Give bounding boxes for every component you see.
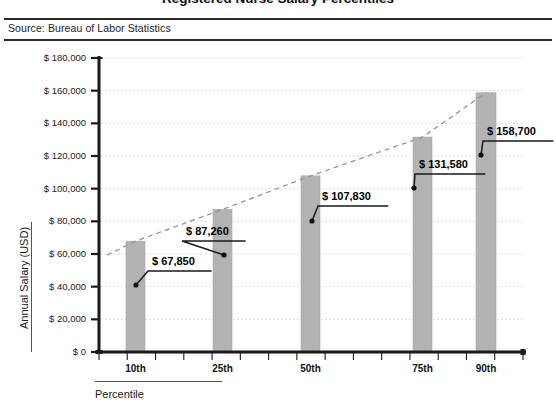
y-tick-label: $ 120,000 [18,150,86,161]
chart-page: Registered Nurse Salary Percentiles Sour… [0,0,556,415]
y-tick-label: $ 60,000 [18,248,86,259]
y-tick-label: $ 20,000 [18,313,86,324]
x-tick-label: 25th [198,363,248,374]
data-label: $ 67,850 [152,255,195,267]
x-tick-label: 10th [111,363,161,374]
x-tick-label: 75th [398,363,448,374]
data-label: $ 87,260 [186,225,229,237]
x-tick-label: 90th [461,363,511,374]
y-tick-label: $ 100,000 [18,183,86,194]
y-tick-label: $ 80,000 [18,215,86,226]
y-tick-label: $ 160,000 [18,85,86,96]
data-label: $ 158,700 [487,125,536,137]
x-tick-label: 50th [286,363,336,374]
y-tick-label: $ 0 [18,346,86,357]
data-label: $ 131,580 [419,158,468,170]
y-tick-label: $ 180,000 [18,52,86,63]
y-tick-label: $ 40,000 [18,281,86,292]
y-tick-label: $ 140,000 [18,117,86,128]
data-label: $ 107,830 [322,190,371,202]
